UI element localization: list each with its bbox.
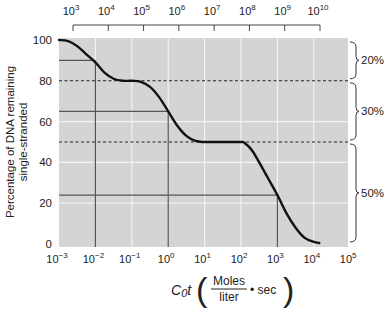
brace <box>350 42 359 79</box>
left-paren: ( <box>196 270 208 308</box>
top-axis-tick-label: 106 <box>169 3 186 17</box>
brace-label: 20% <box>361 54 384 66</box>
x-tick-label: 10−2 <box>83 251 105 265</box>
x-tick-label: 101 <box>194 251 211 265</box>
x-label-denominator: liter <box>219 290 238 304</box>
x-tick-label: 105 <box>340 251 357 265</box>
brace <box>350 83 359 140</box>
x-axis-ticks: 10−310−210−1100101102103104105 <box>46 251 357 265</box>
y-tick-label: 0 <box>46 238 52 250</box>
y-axis-label-line1: Percentage of DNA remaining <box>4 66 16 218</box>
top-axis-tick-label: 107 <box>204 3 221 17</box>
top-axis-tick-label: 1010 <box>307 3 329 17</box>
x-axis-label: C0t ( Moles liter • sec ) <box>171 270 294 308</box>
x-tick-label: 10−1 <box>119 251 141 265</box>
brace-label: 50% <box>361 187 384 199</box>
x-tick-label: 100 <box>158 251 175 265</box>
y-tick-label: 40 <box>39 156 52 168</box>
x-label-tail: • sec <box>250 283 276 297</box>
y-tick-label: 80 <box>39 75 52 87</box>
top-axis-tick-label: 109 <box>274 3 291 17</box>
top-axis-tick-label: 105 <box>133 3 150 17</box>
brace <box>350 144 359 242</box>
y-axis-label-line2: single-stranded <box>17 103 29 182</box>
brace-label: 30% <box>361 105 384 117</box>
top-axis-tick-label: 108 <box>239 3 256 17</box>
y-axis-ticks: 020406080100 <box>33 34 52 250</box>
x-label-t: t <box>187 282 192 298</box>
y-tick-label: 100 <box>33 34 52 46</box>
right-paren: ) <box>283 270 294 308</box>
x-tick-label: 103 <box>267 251 284 265</box>
top-axis-tick-label: 104 <box>98 3 115 17</box>
cot-chart: 020406080100 10−310−210−1100101102103104… <box>0 0 387 309</box>
y-axis-label: Percentage of DNA remaining single-stran… <box>4 66 29 218</box>
y-tick-label: 20 <box>39 197 52 209</box>
top-axis: 1031041051061071081091010 <box>63 3 329 31</box>
svg-text:C0t: C0t <box>171 282 192 299</box>
x-label-numerator: Moles <box>213 274 245 288</box>
top-axis-tick-label: 103 <box>63 3 80 17</box>
x-tick-label: 104 <box>303 251 320 265</box>
percentage-braces: 20%30%50% <box>350 42 384 242</box>
x-tick-label: 10−3 <box>46 251 68 265</box>
y-tick-label: 60 <box>39 116 52 128</box>
x-tick-label: 102 <box>231 251 248 265</box>
